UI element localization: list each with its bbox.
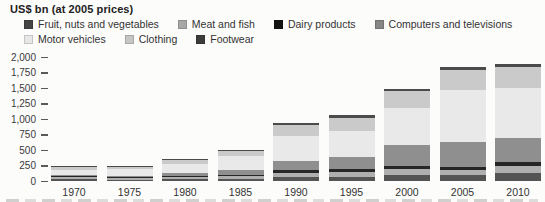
legend-swatch-icon [178,20,187,29]
bar-segment [329,115,375,117]
bar-segment [273,123,319,125]
bar-segment [329,177,375,181]
bar-segment [273,173,319,177]
legend-label: Footwear [210,33,254,45]
bar-segment [384,166,430,169]
bar-segment [273,161,319,171]
y-tick-mark [41,103,48,105]
bar-segment [107,169,153,176]
bar-segment [107,166,153,169]
bar-segment [218,150,264,151]
x-axis-label: 1990 [276,186,316,198]
bar-segment [51,166,97,169]
bar-segment [162,179,208,181]
bar-segment [495,162,541,166]
bar-segment [162,177,208,179]
bar-segment [51,166,97,167]
bar-segment [162,159,208,160]
y-tick-mark [41,119,48,121]
bar-segment [107,180,153,181]
y-tick-label: 500 [2,145,36,156]
bar-segment [384,91,430,108]
bar-segment [162,176,208,177]
bar-segment [495,166,541,173]
bar-segment [495,173,541,181]
bar-segment [440,167,486,171]
bar-segment [218,176,264,179]
bar-segment [273,170,319,172]
x-axis-label: 1970 [54,186,94,198]
bar-segment [329,172,375,177]
legend-row-2: Motor vehiclesClothingFootwear [24,33,254,45]
y-tick-label: 0 [2,176,36,187]
legend-label: Fruit, nuts and vegetables [38,18,159,30]
legend-label: Clothing [139,33,178,45]
x-axis-label: 2000 [387,186,427,198]
bar-segment [51,176,97,177]
y-tick-label: 1,250 [2,98,36,109]
y-tick-label: 250 [2,160,36,171]
bar-segment [51,179,97,181]
bar-segment [273,177,319,181]
legend-item: Clothing [125,33,178,45]
bar-group-2000 [384,89,430,181]
chart-figure: US$ bn (at 2005 prices) Fruit, nuts and … [0,0,545,202]
legend-item: Dairy products [274,18,356,30]
legend-swatch-icon [24,35,33,44]
x-axis-label: 1985 [221,186,261,198]
bar-segment [107,166,153,167]
chart-title: US$ bn (at 2005 prices) [10,3,133,15]
cropped-caption-edge [6,199,538,202]
bar-segment [495,64,541,67]
legend-item: Computers and televisions [375,18,513,30]
bar-segment [440,70,486,90]
y-tick-mark [41,165,48,167]
y-tick-label: 1,500 [2,83,36,94]
legend-label: Dairy products [288,18,356,30]
x-axis-label: 2010 [498,186,538,198]
bar-segment [495,88,541,138]
bar-segment [495,67,541,89]
legend-label: Computers and televisions [389,18,513,30]
bar-segment [440,175,486,181]
bar-group-2005 [440,67,486,181]
legend-swatch-icon [125,35,134,44]
bar-segment [162,160,208,164]
bar-segment [329,118,375,131]
bar-segment [218,151,264,156]
y-tick-label: 1,000 [2,114,36,125]
bar-segment [329,131,375,157]
bar-segment [273,136,319,160]
legend-swatch-icon [274,20,283,29]
bar-segment [107,176,153,177]
bar-group-1970 [51,166,97,182]
bar-group-1980 [162,159,208,181]
y-tick-mark [41,134,48,136]
y-tick-label: 750 [2,129,36,140]
legend-swatch-icon [196,35,205,44]
legend-label: Motor vehicles [38,33,106,45]
bar-segment [218,179,264,181]
legend-item: Footwear [196,33,254,45]
legend-swatch-icon [24,20,33,29]
bar-segment [218,156,264,170]
bar-segment [440,67,486,70]
bar-segment [384,89,430,92]
bar-segment [440,142,486,167]
bar-group-1985 [218,150,264,181]
bar-segment [384,145,430,165]
bar-segment [384,175,430,181]
bar-segment [384,169,430,175]
legend-row-1: Fruit, nuts and vegetablesMeat and fishD… [24,18,512,30]
y-tick-mark [41,57,48,59]
y-tick-mark [41,181,48,183]
legend-swatch-icon [375,20,384,29]
bar-segment [162,164,208,174]
x-axis-label: 1995 [332,186,372,198]
bar-group-1995 [329,115,375,181]
bar-segment [218,170,264,175]
bar-group-1990 [273,123,319,181]
x-axis-label: 1980 [165,186,205,198]
bar-group-1975 [107,166,153,182]
bar-segment [384,108,430,145]
